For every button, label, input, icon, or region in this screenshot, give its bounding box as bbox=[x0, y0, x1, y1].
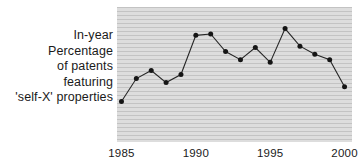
data-point bbox=[164, 80, 169, 85]
data-series-line bbox=[117, 7, 352, 142]
data-point bbox=[342, 84, 347, 89]
data-point bbox=[297, 44, 302, 49]
x-tick-label-1990: 1990 bbox=[183, 146, 209, 160]
data-point bbox=[134, 76, 139, 81]
x-tick-label-2000: 2000 bbox=[331, 146, 357, 160]
chart-axis-caption: In-year Percentage of patents featuring … bbox=[0, 28, 113, 106]
x-tick-label-1985: 1985 bbox=[108, 146, 134, 160]
caption-line-1: In-year bbox=[0, 28, 113, 44]
caption-line-2: Percentage bbox=[0, 44, 113, 60]
caption-line-4: featuring bbox=[0, 75, 113, 91]
series-polyline bbox=[121, 29, 344, 102]
chart-figure: In-year Percentage of patents featuring … bbox=[0, 0, 362, 168]
caption-line-3: of patents bbox=[0, 59, 113, 75]
data-point bbox=[178, 72, 183, 77]
caption-line-5: 'self-X' properties bbox=[0, 90, 113, 106]
data-point bbox=[253, 45, 258, 50]
data-point bbox=[193, 33, 198, 38]
data-point bbox=[268, 60, 273, 65]
data-point bbox=[327, 57, 332, 62]
plot-area bbox=[117, 7, 352, 142]
data-point bbox=[119, 99, 124, 104]
data-point bbox=[283, 26, 288, 31]
data-point bbox=[208, 32, 213, 37]
data-point bbox=[149, 68, 154, 73]
data-point bbox=[223, 49, 228, 54]
data-point bbox=[238, 57, 243, 62]
series-markers bbox=[119, 26, 347, 104]
data-point bbox=[312, 52, 317, 57]
x-tick-label-1995: 1995 bbox=[257, 146, 283, 160]
x-axis-tick-labels: 1985199019952000 bbox=[0, 146, 362, 166]
